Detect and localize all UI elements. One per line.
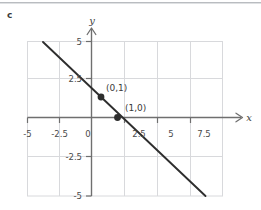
point-annotation-1-0: (1,0)	[125, 103, 146, 113]
xtick-label--5: -5	[23, 129, 31, 139]
x-axis-label: x	[246, 112, 252, 123]
data-point-1-0	[114, 114, 121, 121]
xtick-label-2.5: 2.5	[132, 129, 146, 139]
y-axis	[87, 28, 96, 196]
coordinate-plot: -5 -2.5 0 2.5 5 7.5 5 2.5 -2.5 -5 y x (0…	[0, 0, 261, 210]
ytick-label--5: -5	[74, 191, 82, 201]
xtick-label--2.5: -2.5	[51, 129, 68, 139]
xtick-label-7.5: 7.5	[197, 129, 211, 139]
figure-panel: c	[0, 0, 261, 210]
xtick-label-5: 5	[168, 129, 173, 139]
y-tick-marks	[86, 42, 92, 197]
ytick-label-5: 5	[77, 37, 82, 47]
y-axis-label: y	[88, 15, 95, 26]
data-point-0-1	[98, 94, 105, 101]
ytick-label--2.5: -2.5	[65, 152, 82, 162]
x-tick-marks	[28, 118, 191, 124]
xtick-label-0: 0	[85, 129, 90, 139]
ytick-label-2.5: 2.5	[68, 74, 82, 84]
point-annotation-0-1: (0,1)	[106, 83, 127, 93]
